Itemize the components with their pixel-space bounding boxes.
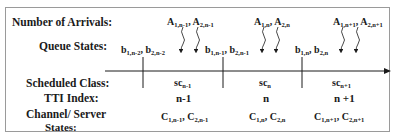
time-axis-arrowhead [384,68,391,74]
arrival-arrow-icon [276,27,280,51]
queue-n-minus-1: b1,n-1, b2,n-1 [205,44,249,56]
arrival-arrow-icon [341,27,345,51]
channel-n-plus-1: C1,n+1, C2,n+1 [314,111,364,123]
channel-n: C1,n, C2,n [249,111,285,123]
arrivals-n: A1,n, A2,n [254,16,290,28]
arrival-arrow-icon [356,27,360,51]
arrivals-n-minus-1: A1,n-1, A2,n-1 [167,16,214,28]
arrival-arrow-icon [196,27,200,51]
tti-n-minus-1: n-1 [176,92,191,104]
queue-n-minus-2: b1,n-2, b2,n-2 [121,44,165,56]
channel-n-minus-1: C1,n-1, C2,n-1 [161,111,208,123]
tti-n: n [263,92,269,104]
arrival-arrow-icon [181,27,185,51]
arrival-arrow-icon [262,27,266,51]
scheduled-n-minus-1: scn-1 [174,77,191,89]
scheduled-n-plus-1: scn+1 [332,77,351,89]
scheduled-n: scn [259,77,271,89]
queue-n: b1,n, b2,n [295,44,328,56]
tti-n-plus-1: n +1 [334,92,355,104]
arrivals-n-plus-1: A1,n+1, A2,n+1 [333,16,383,28]
